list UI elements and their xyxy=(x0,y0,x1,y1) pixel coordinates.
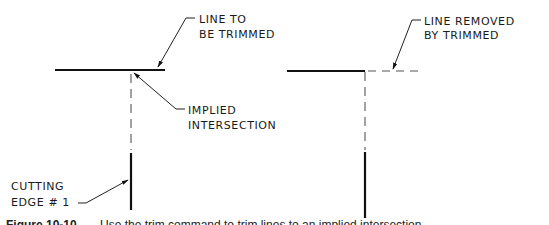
label-line-removed-2: BY TRIMMED xyxy=(424,29,499,42)
leader-line-to-be-trimmed xyxy=(158,18,195,67)
caption-text: Use the trim command to trim lines to an… xyxy=(100,218,425,225)
caption-label: Figure 10-10 xyxy=(6,218,77,225)
label-implied-intersection-2: INTERSECTION xyxy=(188,119,276,132)
label-implied-intersection-1: IMPLIED xyxy=(188,104,236,117)
label-cutting-edge-1: CUTTING xyxy=(11,180,64,193)
leader-cutting-edge xyxy=(78,180,128,203)
right-panel: LINE REMOVED BY TRIMMED xyxy=(287,15,515,218)
label-cutting-edge-2: EDGE # 1 xyxy=(11,196,70,209)
figure-caption: Figure 10-10 Use the trim command to tri… xyxy=(6,218,425,225)
left-panel: LINE TO BE TRIMMED IMPLIED INTERSECTION … xyxy=(11,13,276,210)
trim-implied-intersection-diagram: LINE TO BE TRIMMED IMPLIED INTERSECTION … xyxy=(0,0,549,225)
label-line-to-be-trimmed-1: LINE TO xyxy=(199,13,247,26)
leader-implied-intersection xyxy=(134,73,185,109)
leader-line-removed xyxy=(393,20,421,69)
label-line-removed-1: LINE REMOVED xyxy=(424,15,515,28)
label-line-to-be-trimmed-2: BE TRIMMED xyxy=(199,28,275,41)
